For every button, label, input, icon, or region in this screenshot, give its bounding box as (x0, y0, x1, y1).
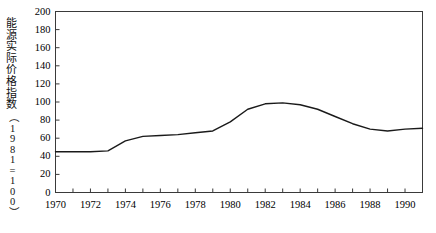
y-axis-label-char: 格 (2, 76, 20, 88)
y-axis-tick-label: 160 (25, 43, 51, 54)
y-axis-tick-label: 140 (25, 61, 51, 72)
y-axis-tick-label: 20 (25, 169, 51, 180)
energy-real-price-index-chart: 能 源 实 际 价 格 指 数 （1981=100） 0204060801001… (0, 0, 436, 233)
y-axis-label-unit: （1981=100） (2, 112, 18, 217)
plot-frame (56, 12, 423, 193)
x-axis-tick-label: 1990 (385, 200, 425, 211)
x-axis-tick-marks (56, 189, 423, 193)
y-axis-label-cjk: 能 源 实 际 价 格 指 数 (2, 18, 20, 111)
y-axis-tick-label: 80 (25, 115, 51, 126)
y-axis-label-char: 数 (2, 99, 20, 111)
y-axis-tick-label: 120 (25, 79, 51, 90)
y-axis-tick-label: 180 (25, 25, 51, 36)
y-axis-tick-label: 40 (25, 151, 51, 162)
y-axis-tick-label: 60 (25, 133, 51, 144)
data-series-line (56, 103, 423, 152)
y-axis-tick-marks (56, 12, 60, 193)
y-axis-tick-label: 200 (25, 7, 51, 18)
y-axis-tick-label: 100 (25, 97, 51, 108)
y-axis-label-char: 能 (2, 18, 20, 30)
y-axis-tick-label: 0 (25, 188, 51, 199)
